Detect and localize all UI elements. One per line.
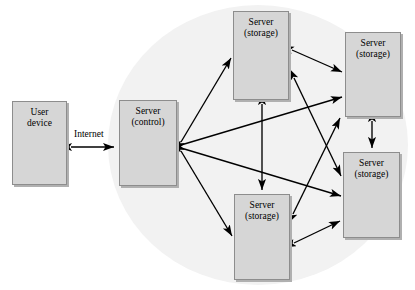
node-server-storage-right-top-line2: (storage) xyxy=(356,49,390,60)
node-server-control[interactable]: Server (control) xyxy=(119,100,177,186)
node-server-storage-bottom[interactable]: Server (storage) xyxy=(234,194,290,280)
node-server-storage-right-bottom[interactable]: Server (storage) xyxy=(343,152,400,238)
node-server-control-line2: (control) xyxy=(131,117,164,128)
node-server-storage-right-top[interactable]: Server (storage) xyxy=(345,32,401,117)
node-server-storage-right-bottom-line2: (storage) xyxy=(355,169,389,180)
node-server-control-line1: Server xyxy=(136,106,161,117)
node-server-storage-top-line2: (storage) xyxy=(244,28,278,39)
node-server-storage-top-line1: Server xyxy=(249,17,274,28)
node-user-device-line2: device xyxy=(27,118,52,129)
node-server-storage-right-bottom-line1: Server xyxy=(359,158,384,169)
node-user-device[interactable]: User device xyxy=(12,101,67,185)
diagram-canvas: User device Server (control) Server (sto… xyxy=(0,0,415,290)
node-user-device-line1: User xyxy=(31,107,49,118)
internet-label: Internet xyxy=(74,129,104,139)
node-server-storage-bottom-line1: Server xyxy=(250,200,275,211)
node-server-storage-bottom-line2: (storage) xyxy=(245,211,279,222)
node-server-storage-top[interactable]: Server (storage) xyxy=(233,11,289,100)
node-server-storage-right-top-line1: Server xyxy=(361,38,386,49)
